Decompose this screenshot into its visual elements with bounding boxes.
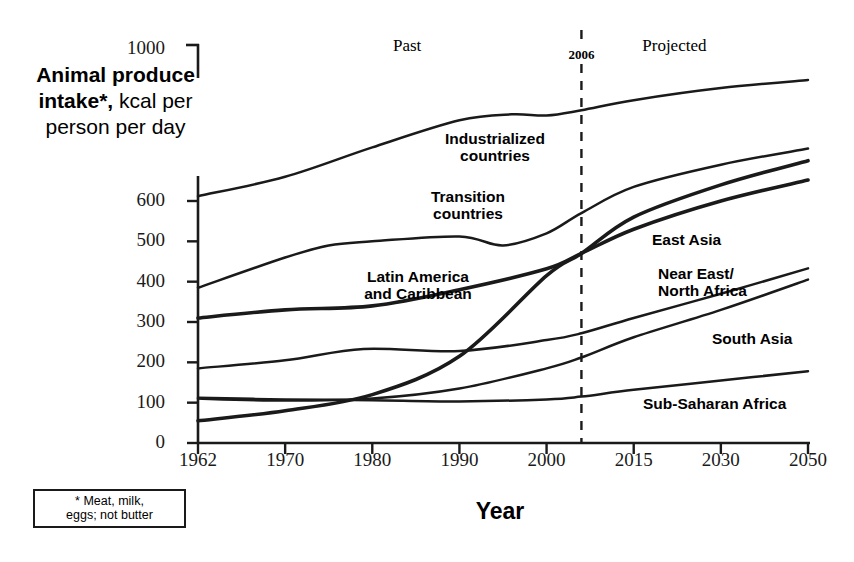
series-label-line: Transition	[431, 188, 505, 205]
series-label-line: North Africa	[658, 282, 747, 299]
series-label-line: countries	[445, 147, 545, 164]
series-label-line: East Asia	[652, 231, 721, 248]
series-label-line: Latin America	[364, 268, 472, 285]
series-label-east-asia: East Asia	[652, 231, 721, 248]
series-label-sub-saharan-africa: Sub-Saharan Africa	[643, 395, 786, 412]
period-label-past: Past	[393, 36, 421, 56]
series-label-near-east-north-africa: Near East/North Africa	[658, 265, 747, 299]
period-label-projected: Projected	[642, 36, 706, 56]
chart-root: Animal produce intake*, kcal per person …	[0, 0, 854, 562]
footnote-box: * Meat, milk, eggs; not butter	[33, 489, 186, 528]
series-label-line: Sub-Saharan Africa	[643, 395, 786, 412]
series-label-line: countries	[431, 205, 505, 222]
series-label-line: South Asia	[712, 330, 792, 347]
series-label-transition-countries: Transitioncountries	[431, 188, 505, 222]
x-axis-title: Year	[476, 498, 525, 525]
series-label-latin-america-and-caribbean: Latin Americaand Caribbean	[364, 268, 472, 302]
series-label-south-asia: South Asia	[712, 330, 792, 347]
marker-year-label: 2006	[566, 47, 596, 63]
series-label-line: Industrialized	[445, 130, 545, 147]
series-label-industrialized-countries: Industrializedcountries	[445, 130, 545, 164]
series-label-line: and Caribbean	[364, 285, 472, 302]
series-label-line: Near East/	[658, 265, 747, 282]
